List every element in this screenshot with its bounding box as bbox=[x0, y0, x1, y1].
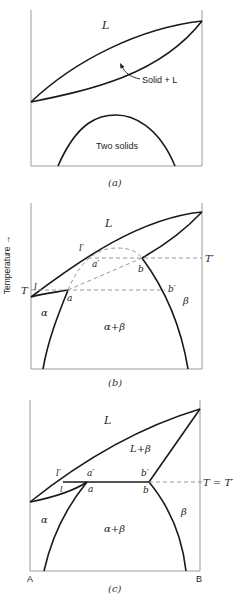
panel-b-label-alpha: α bbox=[41, 307, 48, 318]
panel-c-frame bbox=[30, 400, 200, 571]
phase-diagrams-figure: L Solid + L Two solids (a) L l′ a′ b T′ … bbox=[0, 0, 237, 596]
panel-b-label-a-prime: a′ bbox=[92, 259, 99, 269]
panel-c-label-beta: β bbox=[180, 506, 187, 517]
panel-b-beta-solvus bbox=[142, 258, 188, 369]
panel-b-caption: (b) bbox=[108, 377, 122, 388]
panel-b-label-a: a bbox=[67, 293, 72, 303]
panel-c-label-b: b bbox=[143, 485, 149, 495]
panel-c-liquidus bbox=[30, 409, 200, 502]
panel-b-liquidus bbox=[31, 212, 202, 297]
x-axis-label-B: B bbox=[196, 574, 202, 584]
x-axis-label-A: A bbox=[27, 574, 33, 584]
panel-b-metastable-dome bbox=[68, 248, 142, 290]
panel-a-caption: (a) bbox=[108, 177, 122, 188]
panel-b-frame bbox=[31, 203, 202, 369]
panel-a-label-liquid: L bbox=[101, 19, 109, 32]
panel-c-beta-solvus bbox=[149, 482, 186, 571]
panel-a-label-two-solids: Two solids bbox=[96, 141, 139, 151]
arrow-head-icon bbox=[120, 63, 125, 69]
y-axis-label-group: Temperature → bbox=[2, 236, 12, 295]
panel-c-label-b-prime: b′ bbox=[141, 468, 149, 478]
panel-c-label-liquid: L bbox=[103, 414, 111, 427]
panel-c-label-alpha: α bbox=[41, 514, 48, 525]
panel-c-beta-solidus bbox=[149, 409, 200, 482]
panel-c-label-T-eq-T-prime: T = T′ bbox=[203, 477, 234, 488]
panel-a-liquidus bbox=[31, 21, 202, 102]
panel-c-caption: (c) bbox=[108, 583, 122, 594]
panel-b-alpha-solvus bbox=[43, 290, 68, 369]
panel-b-beta-solidus bbox=[142, 212, 202, 258]
panel-b-label-b: b bbox=[138, 264, 144, 274]
panel-b-label-T: T bbox=[21, 285, 29, 296]
panel-c-label-a-prime: a′ bbox=[87, 468, 94, 478]
panel-a: L Solid + L Two solids (a) bbox=[31, 10, 202, 188]
y-axis-label: Temperature → bbox=[2, 236, 12, 295]
panel-c: L L+β l′ a′ b′ T = T′ l a b β α α+β A B … bbox=[27, 400, 234, 594]
panel-b: L l′ a′ b T′ l T a b′ β α α+β (b) Temper… bbox=[2, 203, 215, 388]
panel-c-label-l-prime: l′ bbox=[56, 468, 61, 478]
panel-b-label-alpha-beta: α+β bbox=[104, 321, 125, 332]
panel-b-label-liquid: L bbox=[104, 217, 112, 230]
panel-b-label-T-prime: T′ bbox=[205, 253, 215, 264]
panel-b-label-l: l bbox=[34, 282, 37, 292]
panel-b-label-beta: β bbox=[182, 295, 189, 306]
panel-c-label-liquid-beta: L+β bbox=[129, 443, 151, 454]
panel-c-label-a: a bbox=[88, 484, 93, 494]
panel-a-label-solid-liquid: Solid + L bbox=[142, 75, 177, 85]
panel-b-label-b-prime: b′ bbox=[168, 284, 176, 294]
panel-c-label-l: l bbox=[60, 485, 63, 494]
panel-c-alpha-solvus bbox=[44, 482, 87, 571]
panel-a-solidus bbox=[31, 21, 202, 102]
panel-b-label-l-prime: l′ bbox=[79, 243, 84, 253]
panel-c-label-alpha-beta: α+β bbox=[104, 523, 125, 534]
